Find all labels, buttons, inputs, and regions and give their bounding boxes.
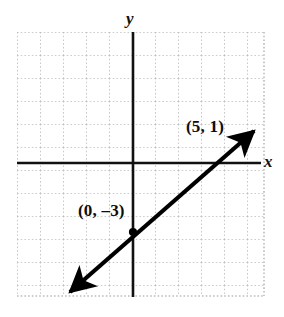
y-axis-label: y — [126, 10, 134, 27]
x-axis-label: x — [264, 153, 273, 170]
point-label-intercept: (0, –3) — [78, 202, 125, 219]
graph-canvas — [0, 0, 284, 317]
y-intercept-point-marker — [129, 228, 137, 236]
point-label-upper: (5, 1) — [186, 118, 224, 135]
coordinate-plane-figure: y x (5, 1) (0, –3) — [0, 0, 284, 317]
